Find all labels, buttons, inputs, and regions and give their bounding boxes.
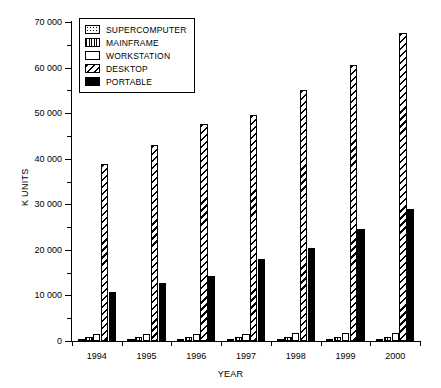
legend-label: SUPERCOMPUTER: [106, 25, 187, 35]
x-tick: [122, 341, 123, 346]
y-tick-label: 50 000: [8, 109, 62, 118]
bar-supercomputer-1994: [78, 339, 85, 342]
legend-item: PORTABLE: [85, 75, 187, 88]
legend-item: DESKTOP: [85, 62, 187, 75]
bar-supercomputer-1997: [227, 339, 234, 342]
bar-portable-1994: [109, 292, 116, 341]
bar-desktop-1998: [300, 90, 307, 341]
bar-mainframe-1997: [235, 337, 242, 341]
bar-workstation-1994: [93, 334, 100, 341]
y-tick-minor: [67, 45, 71, 46]
bar-workstation-1995: [143, 334, 150, 341]
legend-item: MAINFRAME: [85, 36, 187, 49]
y-tick-label: 30 000: [8, 200, 62, 209]
bar-mainframe-1994: [85, 337, 92, 341]
bar-workstation-1997: [242, 334, 249, 341]
x-axis-line: [71, 341, 421, 342]
bar-supercomputer-1996: [177, 339, 184, 342]
bar-portable-1998: [308, 248, 315, 341]
bar-portable-1995: [159, 283, 166, 341]
bar-supercomputer-1995: [127, 339, 134, 342]
x-tick: [271, 341, 272, 346]
y-tick-minor: [67, 318, 71, 319]
bar-mainframe-1998: [284, 337, 291, 341]
bar-workstation-1996: [193, 334, 200, 341]
bar-supercomputer-2000: [376, 339, 383, 342]
y-tick-minor: [67, 182, 71, 183]
y-tick: [65, 68, 71, 69]
x-tick-label: 2000: [365, 351, 425, 361]
bar-workstation-1999: [342, 333, 349, 341]
x-tick: [72, 341, 73, 346]
legend-item: SUPERCOMPUTER: [85, 23, 187, 36]
bar-mainframe-1996: [185, 337, 192, 341]
x-tick: [171, 341, 172, 346]
y-tick-label: 70 000: [8, 18, 62, 27]
y-tick: [65, 22, 71, 23]
legend-label: WORKSTATION: [106, 51, 170, 61]
legend: SUPERCOMPUTER MAINFRAME WORKSTATION DESK…: [79, 18, 195, 93]
bar-desktop-2000: [399, 33, 406, 341]
x-tick: [420, 341, 421, 346]
bar-supercomputer-1999: [326, 339, 333, 342]
swatch-desktop-icon: [85, 64, 100, 73]
y-tick: [65, 250, 71, 251]
bar-supercomputer-1998: [277, 339, 284, 342]
bar-desktop-1995: [151, 145, 158, 341]
swatch-supercomputer-icon: [85, 25, 100, 34]
y-tick: [65, 295, 71, 296]
y-tick-minor: [67, 90, 71, 91]
x-tick: [221, 341, 222, 346]
swatch-workstation-icon: [85, 51, 100, 60]
y-tick: [65, 341, 71, 342]
bar-workstation-1998: [292, 333, 299, 341]
swatch-portable-icon: [85, 77, 100, 86]
legend-item: WORKSTATION: [85, 49, 187, 62]
bar-desktop-1996: [200, 124, 207, 341]
y-tick: [65, 159, 71, 160]
y-tick-label: 60 000: [8, 63, 62, 72]
bar-desktop-1999: [350, 65, 357, 341]
x-tick: [321, 341, 322, 346]
y-tick: [65, 204, 71, 205]
bar-workstation-2000: [392, 333, 399, 341]
bar-mainframe-1995: [135, 337, 142, 341]
y-tick: [65, 113, 71, 114]
bar-chart: K UNITS YEAR 010 00020 00030 00040 00050…: [0, 0, 441, 388]
y-tick-label: 0: [8, 337, 62, 346]
bar-mainframe-2000: [384, 337, 391, 341]
y-tick-minor: [67, 273, 71, 274]
legend-label: DESKTOP: [106, 64, 148, 74]
bar-portable-2000: [407, 209, 414, 341]
bar-portable-1999: [357, 229, 364, 341]
legend-label: MAINFRAME: [106, 38, 159, 48]
y-tick-label: 10 000: [8, 291, 62, 300]
y-tick-minor: [67, 136, 71, 137]
x-axis-title: YEAR: [10, 369, 441, 379]
swatch-mainframe-icon: [85, 38, 100, 47]
y-tick-minor: [67, 227, 71, 228]
x-tick: [370, 341, 371, 346]
y-tick-label: 20 000: [8, 245, 62, 254]
y-tick-label: 40 000: [8, 154, 62, 163]
bar-desktop-1994: [101, 164, 108, 341]
bar-mainframe-1999: [334, 337, 341, 341]
bar-portable-1996: [208, 276, 215, 341]
bar-portable-1997: [258, 259, 265, 341]
bar-desktop-1997: [250, 115, 257, 341]
legend-label: PORTABLE: [106, 77, 152, 87]
